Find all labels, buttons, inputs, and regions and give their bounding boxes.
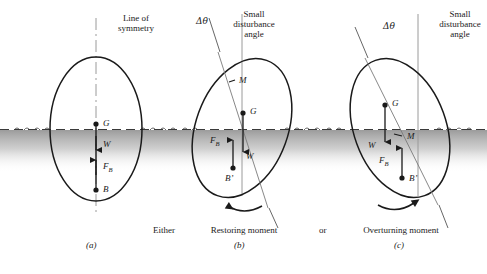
or-label: or bbox=[319, 225, 327, 235]
label-FB-c-sub: B bbox=[385, 160, 389, 167]
angle-label-c: Δθ bbox=[383, 21, 395, 31]
label-W-b: W bbox=[246, 151, 254, 161]
line-of-symmetry-line1: Line of bbox=[104, 13, 168, 23]
sda-c-line3: angle bbox=[424, 29, 487, 39]
caption-a: (a) bbox=[86, 240, 97, 250]
sda-b-line2: disturbance bbox=[218, 19, 290, 29]
label-FB-b-sub: B bbox=[216, 140, 220, 147]
point-B-a bbox=[93, 187, 98, 192]
tick-M-b bbox=[229, 80, 235, 82]
label-W-a: W bbox=[103, 139, 111, 149]
point-G-a bbox=[93, 121, 98, 126]
label-G-b: G bbox=[250, 106, 257, 116]
small-disturbance-angle-label-c: Small disturbance angle bbox=[424, 9, 487, 39]
label-M-c: M bbox=[407, 131, 415, 141]
overturning-moment-label: Overturning moment bbox=[343, 225, 459, 235]
label-G-a: G bbox=[103, 118, 110, 128]
caption-c: (c) bbox=[394, 240, 404, 250]
label-G-c: G bbox=[392, 98, 399, 108]
label-FB-c: FB bbox=[379, 155, 389, 167]
label-FB-a: FB bbox=[103, 161, 113, 173]
sda-c-line1: Small bbox=[424, 9, 487, 19]
label-FB-a-sub: B bbox=[109, 166, 113, 173]
restoring-moment-label: Restoring moment bbox=[196, 225, 292, 235]
caption-b: (b) bbox=[234, 240, 245, 250]
panel-b-graphics bbox=[174, 14, 310, 228]
sda-b-line3: angle bbox=[218, 29, 290, 39]
sda-b-line1: Small bbox=[218, 9, 290, 19]
label-Bprime-b: B’ bbox=[225, 173, 234, 183]
small-disturbance-angle-label-b: Small disturbance angle bbox=[218, 9, 290, 39]
panel-c-graphics bbox=[332, 14, 468, 228]
label-Bprime-c: B’ bbox=[409, 173, 418, 183]
label-FB-b: FB bbox=[210, 135, 220, 147]
sda-c-line2: disturbance bbox=[424, 19, 487, 29]
angle-leader-c bbox=[355, 27, 368, 58]
panel-a-graphics bbox=[50, 18, 142, 213]
either-label: Either bbox=[153, 225, 175, 235]
line-of-symmetry-label: Line of symmetry bbox=[104, 13, 168, 33]
angle-label-b: Δθ bbox=[196, 16, 208, 26]
moment-arrow-b bbox=[228, 206, 262, 211]
label-W-c: W bbox=[368, 140, 376, 150]
moment-arrow-c bbox=[378, 203, 414, 210]
line-of-symmetry-line2: symmetry bbox=[104, 23, 168, 33]
label-M-b: M bbox=[239, 75, 247, 85]
figure-container: Line of symmetry G W FB B (a) Δθ Small d… bbox=[0, 0, 487, 274]
label-B-a: B bbox=[103, 184, 109, 194]
